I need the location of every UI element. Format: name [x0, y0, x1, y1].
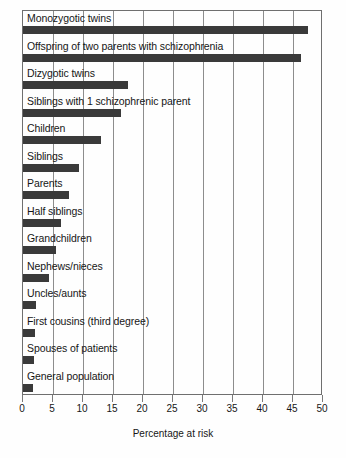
bar-row: Grandchildren: [23, 232, 321, 260]
x-tick-label: 15: [106, 403, 117, 415]
x-tick-mark: [172, 395, 173, 402]
bar: [23, 384, 33, 392]
bar-row: Spouses of patients: [23, 342, 321, 370]
x-tick-mark: [322, 395, 323, 402]
bar-row: Half siblings: [23, 205, 321, 233]
bar: [23, 329, 35, 337]
bar-row: Uncles/aunts: [23, 287, 321, 315]
bar-row: Siblings: [23, 150, 321, 178]
bar: [23, 301, 36, 309]
bar: [23, 274, 49, 282]
bar-row-label: Parents: [27, 177, 63, 190]
bar-row: Dizygotic twins: [23, 67, 321, 95]
bar-row-label: First cousins (third degree): [27, 315, 149, 328]
bar-rows: Monozygotic twinsOffspring of two parent…: [23, 11, 321, 394]
bar-row: Parents: [23, 177, 321, 205]
bar-row: Nephews/nieces: [23, 260, 321, 288]
bar: [23, 164, 79, 172]
x-tick-label: 30: [196, 403, 207, 415]
x-tick-label: 25: [166, 403, 177, 415]
bar: [23, 136, 101, 144]
bar-row: Offspring of two parents with schizophre…: [23, 40, 321, 68]
x-tick-mark: [202, 395, 203, 402]
bar: [23, 356, 34, 364]
x-axis-title: Percentage at risk: [0, 428, 346, 439]
bar-row: Monozygotic twins: [23, 12, 321, 40]
bar-row-label: Children: [27, 122, 65, 135]
x-tick-mark: [232, 395, 233, 402]
x-tick-mark: [112, 395, 113, 402]
bar-row-label: Offspring of two parents with schizophre…: [27, 40, 223, 53]
bar-row-label: Dizygotic twins: [27, 67, 95, 80]
bar: [23, 246, 56, 254]
x-tick-label: 35: [226, 403, 237, 415]
plot-area: Monozygotic twinsOffspring of two parent…: [22, 10, 322, 395]
x-tick-label: 45: [286, 403, 297, 415]
bar-row-label: Siblings with 1 schizophrenic parent: [27, 95, 190, 108]
bar-row-label: Spouses of patients: [27, 342, 117, 355]
x-axis: 05101520253035404550: [22, 395, 322, 421]
bar-row: Children: [23, 122, 321, 150]
x-tick-label: 0: [19, 403, 25, 415]
bar: [23, 191, 69, 199]
x-tick-mark: [262, 395, 263, 402]
risk-of-schizophrenia-bar-chart: Monozygotic twinsOffspring of two parent…: [0, 0, 346, 458]
x-tick-mark: [292, 395, 293, 402]
bar-row-label: Grandchildren: [27, 232, 92, 245]
bar-row: First cousins (third degree): [23, 315, 321, 343]
bar-row-label: Monozygotic twins: [27, 12, 111, 25]
bar-row-label: Uncles/aunts: [27, 287, 87, 300]
x-tick-label: 5: [49, 403, 55, 415]
x-tick-label: 20: [136, 403, 147, 415]
x-tick-mark: [52, 395, 53, 402]
x-tick-label: 50: [316, 403, 327, 415]
x-tick-label: 40: [256, 403, 267, 415]
bar-row-label: Half siblings: [27, 205, 82, 218]
x-tick-mark: [22, 395, 23, 402]
bar-row: Siblings with 1 schizophrenic parent: [23, 95, 321, 123]
x-tick-label: 10: [76, 403, 87, 415]
bar: [23, 54, 301, 62]
x-tick-mark: [82, 395, 83, 402]
bar: [23, 26, 308, 34]
x-tick-mark: [142, 395, 143, 402]
bar-row-label: Nephews/nieces: [27, 260, 103, 273]
bar-row: General population: [23, 370, 321, 398]
bar-row-label: Siblings: [27, 150, 63, 163]
bar-row-label: General population: [27, 370, 114, 383]
bar: [23, 81, 128, 89]
bar: [23, 219, 61, 227]
bar: [23, 109, 121, 117]
